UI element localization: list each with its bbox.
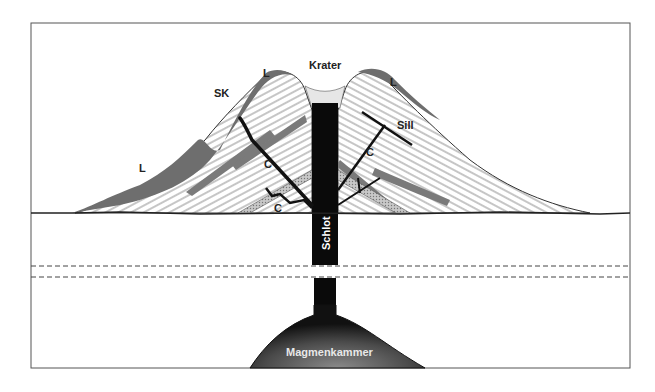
label-dike-right: C — [366, 146, 374, 158]
label-crater: Krater — [309, 59, 342, 71]
label-lava-left-low: L — [139, 162, 146, 174]
label-dike-left-upper: C — [264, 158, 272, 170]
volcano-diagram: Krater L L SK L Sill C C C Schlot Magmen… — [0, 0, 655, 392]
label-conduit: Schlot — [320, 216, 332, 250]
label-sill: Sill — [397, 119, 414, 131]
label-lava-right: L — [390, 76, 397, 88]
label-parasitic-cone: SK — [214, 87, 229, 99]
label-lava-left-high: L — [263, 67, 270, 79]
label-magma-chamber: Magmenkammer — [286, 346, 374, 358]
label-dike-left-lower: C — [274, 202, 282, 214]
